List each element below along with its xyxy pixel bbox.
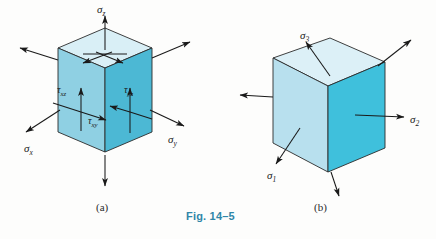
stress-element-figure (0, 0, 436, 239)
label-sigma-2: σ2 (410, 114, 419, 128)
label-sigma-1: σ1 (267, 170, 276, 184)
label-tau-xz: τxz (57, 85, 66, 98)
label-sigma-x: σx (24, 143, 33, 157)
arrow-right-upper (152, 42, 190, 58)
label-tau-yz: τyz (124, 85, 133, 98)
label-tau-xy: τxy (88, 116, 98, 129)
panel-label-b: (b) (314, 201, 327, 213)
figure-page: σz σx σy τxz τxy τyz σ3 σ2 σ1 (a) (b) Fi… (0, 0, 436, 239)
arrow-sigma-y (150, 110, 184, 126)
label-sigma-z: σz (97, 4, 105, 18)
panel-b-cube (273, 38, 385, 172)
label-sigma-3: σ3 (300, 30, 309, 44)
arrow-sigma-1-opposite (240, 95, 273, 97)
arrow-left-upper (20, 48, 58, 60)
panel-label-a: (a) (96, 201, 108, 213)
arrow-sigma-x (26, 110, 60, 132)
figure-caption: Fig. 14–5 (186, 210, 235, 222)
label-sigma-y: σy (168, 134, 177, 148)
arrow-sigma-3-opposite (331, 172, 339, 196)
arrow-sigma-2-opposite (378, 40, 411, 66)
